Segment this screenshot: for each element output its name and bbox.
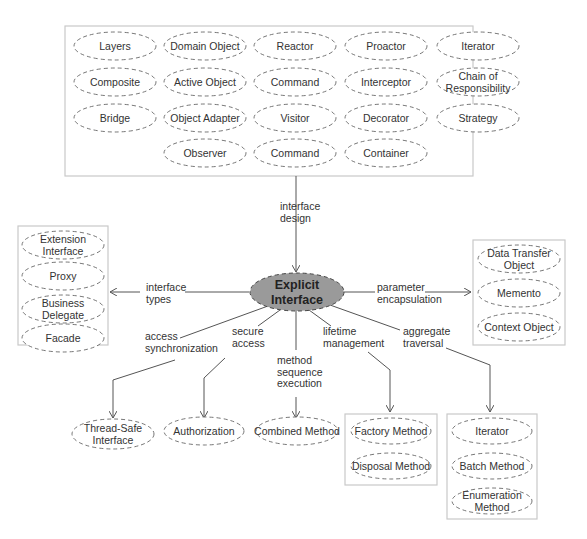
pattern-node-layers: Layers	[74, 32, 156, 60]
pattern-node-label: Layers	[99, 40, 131, 52]
pattern-node-label: Thread-Safe	[84, 422, 143, 434]
edge-secure-access-b	[204, 358, 225, 418]
edge-label-interface-design: design	[280, 212, 311, 224]
pattern-node-proxy: Proxy	[22, 262, 104, 290]
pattern-node-label: Iterator	[461, 40, 495, 52]
pattern-node-label: Composite	[90, 76, 140, 88]
edge-lifetime-a	[309, 310, 331, 326]
edge-traversal-b	[446, 348, 490, 412]
standalone-nodes: Thread-SafeInterfaceAuthorizationCombine…	[72, 417, 340, 449]
pattern-node-label: Visitor	[281, 112, 310, 124]
pattern-node-container: Container	[345, 139, 427, 167]
pattern-node-label: Iterator	[475, 425, 509, 437]
pattern-node-proactor: Proactor	[345, 32, 427, 60]
pattern-node-enumeration-method: EnumerationMethod	[452, 488, 532, 514]
edge-label-aggregate-traversal: aggregate	[403, 325, 450, 337]
pattern-node-label: Interface	[93, 434, 134, 446]
right-group-nodes: Data TransferObjectMementoContext Object	[478, 245, 560, 341]
pattern-node-label: Proxy	[50, 270, 78, 282]
pattern-node-authorization: Authorization	[164, 417, 244, 445]
pattern-node-label: Batch Method	[460, 460, 525, 472]
pattern-node-label: Object	[504, 259, 534, 271]
pattern-diagram: Explicit Interface LayersDomain ObjectRe…	[0, 0, 587, 539]
pattern-node-label: Command	[271, 76, 320, 88]
pattern-node-label: Bridge	[100, 112, 131, 124]
pattern-node-label: Extension	[40, 233, 86, 245]
pattern-node-data-transfer-object: Data TransferObject	[478, 245, 560, 273]
pattern-node-label: Observer	[183, 147, 227, 159]
explicit-interface-node: Explicit Interface	[250, 273, 344, 311]
edge-label-secure-access: access	[232, 337, 265, 349]
pattern-node-memento: Memento	[478, 279, 560, 307]
pattern-node-business-delegate: BusinessDelegate	[22, 295, 104, 323]
pattern-node-strategy: Strategy	[437, 104, 519, 132]
pattern-node-label: Reactor	[277, 40, 314, 52]
pattern-node-active-object: Active Object	[164, 68, 246, 96]
edge-label-interface-types: types	[146, 293, 171, 305]
pattern-node-label: Data Transfer	[487, 247, 551, 259]
pattern-node-label: Strategy	[458, 112, 498, 124]
pattern-node-label: Proactor	[366, 40, 406, 52]
pattern-node-command: Command	[254, 139, 336, 167]
pattern-node-label: Container	[363, 147, 409, 159]
pattern-node-label: Disposal Method	[352, 460, 430, 472]
center-label-line1: Explicit	[275, 278, 320, 292]
pattern-node-chain-of-responsibility: Chain ofResponsibility	[437, 68, 519, 96]
pattern-node-combined-method: Combined Method	[254, 417, 340, 445]
pattern-node-visitor: Visitor	[254, 104, 336, 132]
pattern-node-context-object: Context Object	[478, 313, 560, 341]
traversal-group-nodes: IteratorBatch MethodEnumerationMethod	[452, 418, 532, 514]
pattern-node-label: Interface	[43, 245, 84, 257]
pattern-node-label: Authorization	[173, 425, 234, 437]
pattern-node-label: Delegate	[42, 309, 84, 321]
pattern-node-decorator: Decorator	[345, 104, 427, 132]
edge-label-access-synchronization: access	[145, 330, 178, 342]
pattern-node-label: Chain of	[458, 70, 497, 82]
pattern-node-iterator: Iterator	[452, 418, 532, 444]
edge-label-interface-types: interface	[146, 281, 186, 293]
edge-label-aggregate-traversal: traversal	[403, 337, 443, 349]
edge-secure-access-a	[258, 310, 280, 326]
pattern-node-label: Facade	[45, 332, 80, 344]
edge-label-method-sequence-execution: method	[277, 354, 312, 366]
pattern-node-reactor: Reactor	[254, 32, 336, 60]
pattern-node-label: Memento	[497, 287, 541, 299]
pattern-node-disposal-method: Disposal Method	[351, 453, 431, 479]
pattern-node-extension-interface: ExtensionInterface	[22, 231, 104, 259]
pattern-node-iterator: Iterator	[437, 32, 519, 60]
edge-label-interface-design: interface	[280, 200, 320, 212]
pattern-node-observer: Observer	[164, 139, 246, 167]
pattern-node-label: Active Object	[174, 76, 236, 88]
pattern-node-factory-method: Factory Method	[351, 418, 431, 444]
pattern-node-label: Enumeration	[462, 489, 522, 501]
pattern-node-composite: Composite	[74, 68, 156, 96]
pattern-node-batch-method: Batch Method	[452, 453, 532, 479]
pattern-node-facade: Facade	[22, 324, 104, 352]
pattern-node-label: Combined Method	[254, 425, 340, 437]
pattern-node-thread-safe-interface: Thread-SafeInterface	[72, 419, 154, 449]
pattern-node-interceptor: Interceptor	[345, 68, 427, 96]
pattern-node-bridge: Bridge	[74, 104, 156, 132]
edge-lifetime-b	[368, 352, 390, 412]
pattern-node-label: Object Adapter	[170, 112, 240, 124]
pattern-node-label: Business	[42, 297, 85, 309]
pattern-node-command: Command	[254, 68, 336, 96]
pattern-node-label: Context Object	[484, 321, 554, 333]
edge-label-access-synchronization: synchronization	[145, 342, 218, 354]
edge-label-lifetime-management: management	[323, 337, 384, 349]
edge-label-lifetime-management: lifetime	[323, 325, 356, 337]
pattern-node-label: Method	[474, 501, 509, 513]
edge-label-method-sequence-execution: sequence	[277, 366, 323, 378]
center-label-line2: Interface	[271, 293, 323, 307]
pattern-node-label: Responsibility	[446, 82, 512, 94]
pattern-node-label: Command	[271, 147, 320, 159]
edge-label-method-sequence-execution: execution	[277, 377, 322, 389]
edge-label-parameter-encapsulation: encapsulation	[377, 293, 442, 305]
pattern-node-domain-object: Domain Object	[164, 32, 246, 60]
pattern-node-label: Interceptor	[361, 76, 412, 88]
edge-label-parameter-encapsulation: parameter	[377, 281, 425, 293]
pattern-node-label: Decorator	[363, 112, 410, 124]
edge-access-sync-b	[113, 360, 175, 418]
pattern-node-label: Factory Method	[355, 425, 428, 437]
pattern-node-label: Domain Object	[170, 40, 240, 52]
